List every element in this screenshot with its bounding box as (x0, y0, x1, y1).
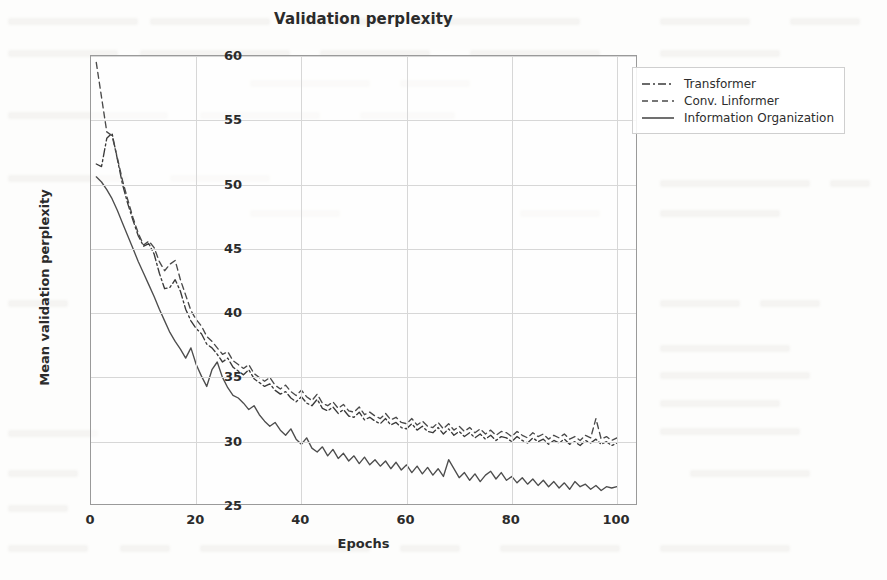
gridline-horizontal (91, 249, 636, 250)
chart-figure: Validation perplexity 2530354045505560 0… (0, 0, 887, 580)
y-tick-label: 30 (202, 433, 242, 448)
y-tick-label: 60 (202, 48, 242, 63)
y-axis-label: Mean validation perplexity (37, 168, 52, 408)
series-line (96, 133, 617, 445)
series-line (96, 177, 617, 491)
gridline-vertical (512, 56, 513, 504)
y-tick-label: 55 (202, 112, 242, 127)
x-tick-label: 20 (170, 512, 220, 527)
legend-line-sample (641, 77, 675, 91)
legend-item-label: Transformer (684, 77, 756, 91)
plot-area (90, 55, 637, 505)
y-tick-label: 50 (202, 176, 242, 191)
x-tick-label: 40 (275, 512, 325, 527)
gridline-horizontal (91, 377, 636, 378)
gridline-horizontal (91, 120, 636, 121)
y-tick-label: 40 (202, 305, 242, 320)
y-tick-label: 35 (202, 369, 242, 384)
gridline-vertical (617, 56, 618, 504)
gridline-horizontal (91, 313, 636, 314)
x-tick-label: 60 (381, 512, 431, 527)
legend-item[interactable]: Information Organization (641, 109, 834, 126)
series-layer (91, 56, 637, 505)
legend-item-label: Information Organization (684, 111, 834, 125)
gridline-vertical (407, 56, 408, 504)
gridline-horizontal (91, 442, 636, 443)
legend-item-label: Conv. Linformer (684, 94, 779, 108)
legend-line-sample (641, 94, 675, 108)
x-tick-label: 0 (65, 512, 115, 527)
x-axis-label: Epochs (90, 536, 637, 551)
y-tick-label: 25 (202, 498, 242, 513)
legend-line-sample (641, 111, 675, 125)
page-title: Validation perplexity (90, 10, 637, 28)
legend-item[interactable]: Transformer (641, 75, 834, 92)
legend-item[interactable]: Conv. Linformer (641, 92, 834, 109)
gridline-horizontal (91, 185, 636, 186)
series-line (96, 62, 617, 440)
page-root: Validation perplexity 2530354045505560 0… (0, 0, 887, 580)
x-tick-label: 80 (486, 512, 536, 527)
y-tick-label: 45 (202, 240, 242, 255)
gridline-vertical (301, 56, 302, 504)
x-tick-label: 100 (591, 512, 641, 527)
chart-legend: TransformerConv. LinformerInformation Or… (632, 67, 845, 134)
gridline-vertical (196, 56, 197, 504)
gridline-horizontal (91, 56, 636, 57)
